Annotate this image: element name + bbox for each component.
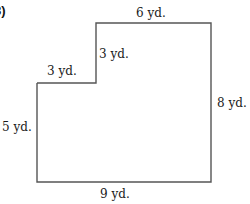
label-notch-vertical: 3 yd.: [99, 48, 129, 60]
label-left: 5 yd.: [2, 121, 32, 133]
l-shaped-figure: [0, 0, 250, 204]
problem-number: 8): [0, 4, 6, 17]
label-bottom: 9 yd.: [100, 188, 130, 200]
label-notch-horizontal: 3 yd.: [47, 65, 77, 77]
label-top: 6 yd.: [136, 7, 166, 19]
label-right: 8 yd.: [217, 97, 247, 109]
